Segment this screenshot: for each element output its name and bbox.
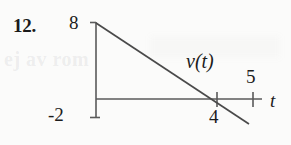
y-axis-tick-label-8: 8 xyxy=(69,12,79,34)
y-axis-tick-label-neg2: -2 xyxy=(48,104,64,126)
x-axis-tick-label-5: 5 xyxy=(246,66,256,88)
x-axis-tick-label-4: 4 xyxy=(209,106,219,128)
x-axis-label-t: t xyxy=(270,90,275,112)
curve-label-vt: v(t) xyxy=(186,50,214,73)
velocity-line-vt xyxy=(96,23,249,124)
figure-container: ej av rom 12. 8 -2 4 5 v(t) t xyxy=(0,0,291,145)
